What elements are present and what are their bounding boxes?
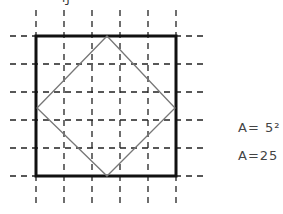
outer-square [36,36,176,176]
area-formula: A= 5² [238,120,280,135]
inner-rotated-square [37,36,175,176]
area-result: A=25 [238,148,278,163]
grid-figure [0,0,283,214]
